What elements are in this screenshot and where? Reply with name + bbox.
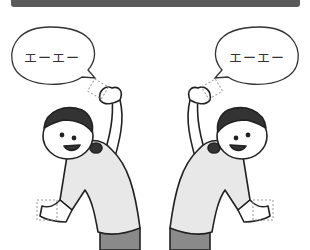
left-bubble-text: エーエー	[24, 47, 80, 66]
right-figure	[170, 87, 270, 250]
exercise-illustration	[0, 0, 310, 250]
left-figure	[40, 87, 140, 250]
right-bubble-text: エーエー	[229, 47, 285, 66]
